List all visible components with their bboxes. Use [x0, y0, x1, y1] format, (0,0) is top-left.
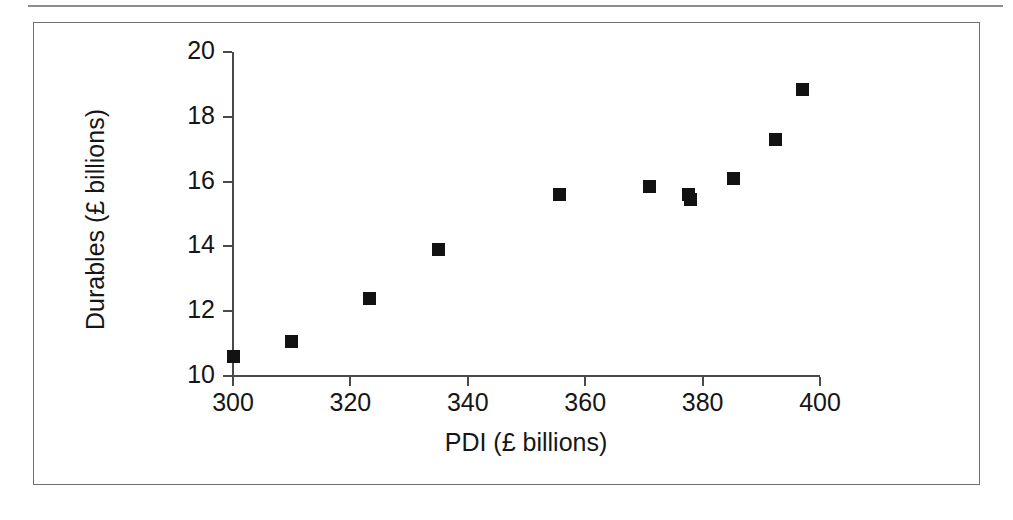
x-tick-label-400: 400: [780, 388, 860, 417]
x-tick-340: [467, 377, 469, 386]
x-axis-title: PDI (£ billions): [232, 428, 820, 457]
data-point: [285, 335, 298, 348]
figure-root: 101214161820 300320340360380400 PDI (£ b…: [0, 0, 1013, 520]
x-tick-label-340: 340: [428, 388, 508, 417]
x-tick-label-380: 380: [663, 388, 743, 417]
data-point: [432, 243, 445, 256]
data-point: [796, 83, 809, 96]
y-axis-title: Durables (£ billions): [81, 55, 110, 385]
y-tick-14: [223, 245, 232, 247]
x-tick-300: [232, 377, 234, 386]
data-point: [227, 350, 240, 363]
y-tick-10: [223, 375, 232, 377]
data-point: [684, 193, 697, 206]
y-tick-18: [223, 116, 232, 118]
x-tick-380: [702, 377, 704, 386]
scatter-plot: 101214161820 300320340360380400 PDI (£ b…: [0, 0, 1013, 520]
data-point: [363, 292, 376, 305]
y-tick-label-16: 16: [155, 166, 215, 195]
y-tick-label-18: 18: [155, 101, 215, 130]
data-point: [727, 172, 740, 185]
data-point: [769, 133, 782, 146]
y-tick-label-20: 20: [155, 36, 215, 65]
x-tick-label-300: 300: [193, 388, 273, 417]
y-tick-12: [223, 310, 232, 312]
x-tick-label-320: 320: [310, 388, 390, 417]
x-tick-label-360: 360: [545, 388, 625, 417]
y-tick-label-12: 12: [155, 295, 215, 324]
y-tick-label-10: 10: [155, 360, 215, 389]
data-point: [643, 180, 656, 193]
x-axis-line: [232, 375, 820, 377]
x-tick-360: [584, 377, 586, 386]
data-point: [553, 188, 566, 201]
x-tick-400: [819, 377, 821, 386]
y-tick-label-14: 14: [155, 230, 215, 259]
x-tick-320: [349, 377, 351, 386]
y-tick-20: [223, 51, 232, 53]
y-tick-16: [223, 181, 232, 183]
y-axis-line: [232, 52, 234, 378]
